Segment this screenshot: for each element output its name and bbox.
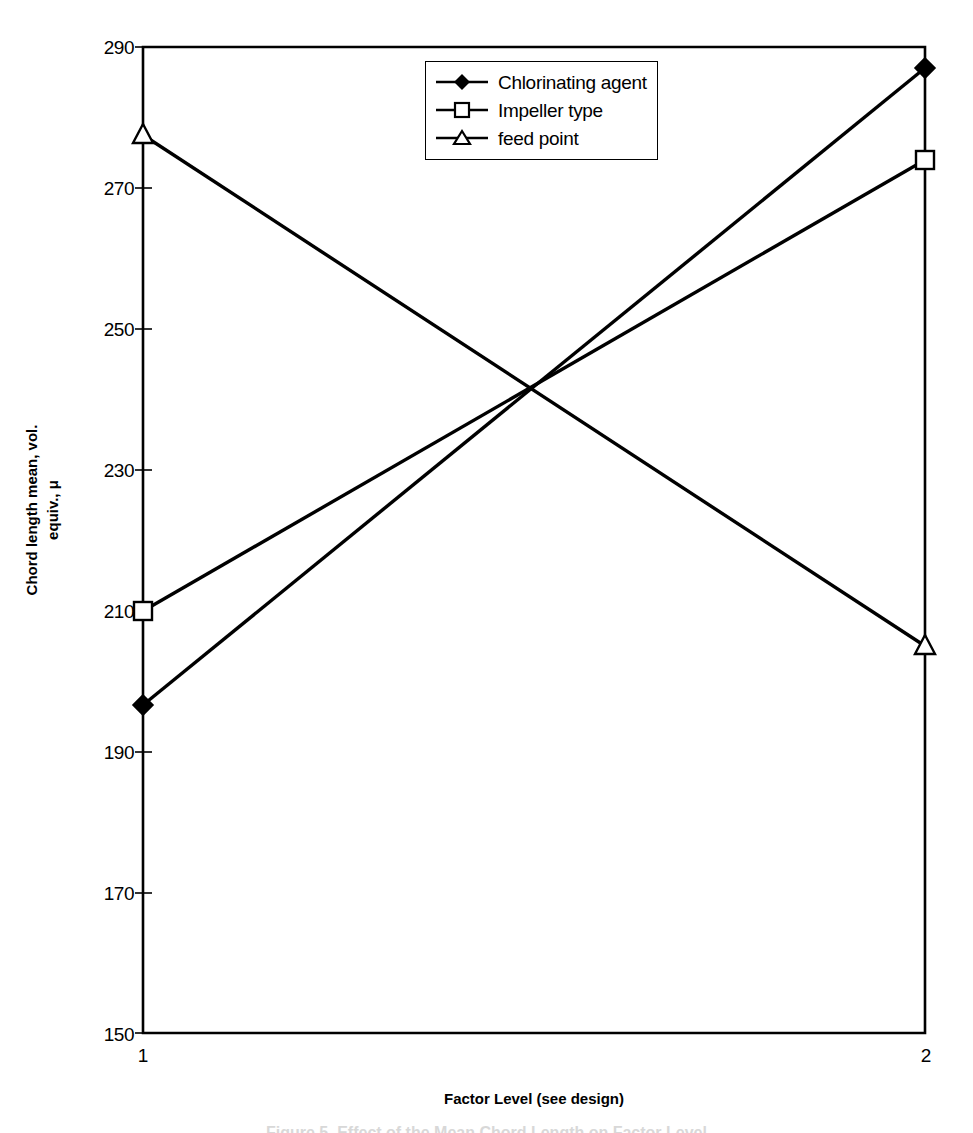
series-impeller-type [134, 151, 934, 620]
chart-legend: Chlorinating agent Impeller type feed po… [425, 61, 658, 160]
data-point-marker [134, 602, 152, 620]
open-triangle-icon [434, 128, 490, 148]
data-point-marker [133, 124, 153, 143]
legend-label: Impeller type [498, 101, 603, 120]
line-chart-figure: Chord length mean, vol. equiv., μ 290 27… [0, 0, 973, 1133]
legend-label: feed point [498, 129, 578, 148]
filled-diamond-icon [434, 72, 490, 92]
legend-item-impeller-type: Impeller type [434, 96, 647, 124]
series-feed-point [133, 124, 935, 654]
x-axis-title: Factor Level (see design) [143, 1090, 925, 1107]
axis-frame [143, 47, 925, 1033]
data-point-marker [916, 151, 934, 169]
legend-item-feed-point: feed point [434, 124, 647, 152]
plot-area [0, 0, 973, 1133]
open-square-icon [434, 100, 490, 120]
figure-caption-partial: Figure 5. Effect of the Mean Chord Lengt… [0, 1124, 973, 1133]
legend-item-chlorinating-agent: Chlorinating agent [434, 68, 647, 96]
data-point-marker [915, 635, 935, 654]
legend-label: Chlorinating agent [498, 73, 647, 92]
